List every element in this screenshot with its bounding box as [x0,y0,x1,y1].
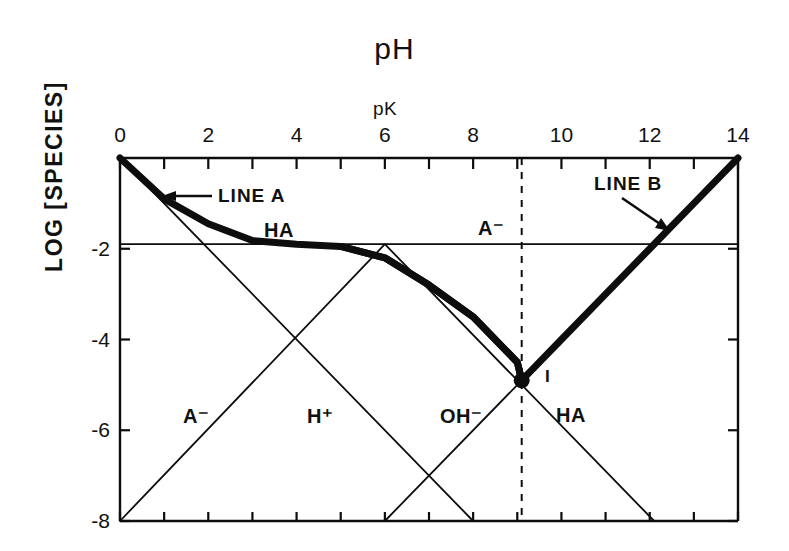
equivalence-marker-label: I [545,367,551,387]
log-species-diagram: pH pK LOG [SPECIES] 02468101214 -2-4-6-8… [0,0,789,551]
a-minus-plateau-label: A⁻ [478,216,504,240]
plot-canvas [0,0,789,551]
line-b-arrow [622,198,670,231]
a-minus-rising-label: A⁻ [183,404,209,428]
series-line-b [341,158,738,380]
h-plus-label: H⁺ [307,404,333,428]
ha-plateau-label: HA [264,219,294,242]
ha-falling-label: HA [556,404,586,427]
equivalence-point-marker [514,372,530,388]
equivalence-point-dot [514,372,530,388]
oh-minus-label: OH⁻ [440,404,483,428]
line-a-label: LINE A [218,185,286,207]
series-line-a [120,158,522,380]
line-b-label: LINE B [594,173,662,195]
series-ha [120,244,654,521]
